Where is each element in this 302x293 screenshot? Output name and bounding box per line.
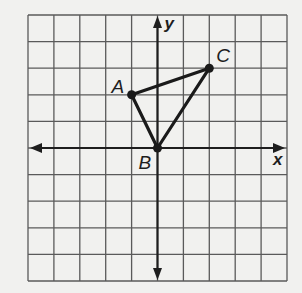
point-a — [127, 90, 136, 99]
point-label-c: C — [216, 45, 230, 66]
triangle-segments — [132, 68, 210, 148]
x-axis-label: x — [272, 150, 284, 169]
segment-ac — [132, 68, 210, 95]
point-b — [153, 144, 162, 153]
y-axis-arrow-down — [153, 268, 162, 280]
point-label-a: A — [111, 76, 125, 97]
y-axis-label: y — [164, 14, 176, 33]
triangle-points: ABC — [111, 45, 231, 173]
coordinate-plane: x y ABC — [0, 0, 302, 293]
y-axis-arrow-up — [153, 16, 162, 28]
x-axis-arrow-left — [30, 143, 42, 153]
point-c — [205, 64, 214, 73]
point-label-b: B — [139, 152, 152, 173]
